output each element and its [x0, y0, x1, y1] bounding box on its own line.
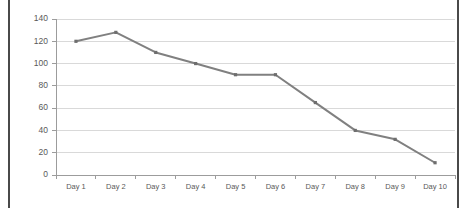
- data-point-marker: [354, 129, 357, 132]
- x-axis-tick-label: Day 3: [146, 182, 166, 191]
- y-axis-tick-label: 60: [39, 102, 49, 112]
- y-axis-tick-label: 20: [39, 147, 49, 157]
- x-axis-tick-label: Day 4: [186, 182, 206, 191]
- data-point-marker: [394, 138, 397, 141]
- series-line-path: [76, 32, 435, 162]
- y-axis-labels: 020406080100120140: [34, 13, 56, 179]
- data-point-markers: [74, 31, 436, 165]
- y-axis-tick-label: 80: [39, 80, 49, 90]
- gridlines: [56, 19, 455, 175]
- x-axis-tick-label: Day 1: [66, 182, 86, 191]
- data-point-marker: [74, 40, 77, 43]
- y-axis-tick-label: 0: [43, 169, 48, 179]
- y-axis-tick-label: 100: [34, 58, 48, 68]
- y-axis-tick-label: 120: [34, 36, 48, 46]
- y-axis-tick-label: 140: [34, 13, 48, 23]
- x-axis-tick-label: Day 9: [385, 182, 405, 191]
- data-point-marker: [114, 31, 117, 34]
- line-chart: 020406080100120140 Day 1Day 2Day 3Day 4D…: [0, 0, 476, 208]
- data-point-marker: [234, 73, 237, 76]
- x-axis-tick-label: Day 2: [106, 182, 126, 191]
- x-axis-tick-label: Day 10: [423, 182, 447, 191]
- data-point-marker: [433, 161, 436, 164]
- x-axis: [56, 175, 455, 179]
- y-axis-tick-label: 40: [39, 125, 49, 135]
- data-point-marker: [154, 51, 157, 54]
- chart-canvas: 020406080100120140 Day 1Day 2Day 3Day 4D…: [0, 0, 476, 208]
- x-axis-tick-label: Day 6: [266, 182, 286, 191]
- chart-screenshot: 020406080100120140 Day 1Day 2Day 3Day 4D…: [0, 0, 476, 208]
- x-axis-tick-label: Day 7: [306, 182, 326, 191]
- data-point-marker: [194, 62, 197, 65]
- x-axis-tick-label: Day 8: [345, 182, 365, 191]
- data-point-marker: [314, 101, 317, 104]
- data-point-marker: [274, 73, 277, 76]
- data-series-line: [76, 32, 435, 162]
- x-axis-tick-label: Day 5: [226, 182, 246, 191]
- x-axis-labels: Day 1Day 2Day 3Day 4Day 5Day 6Day 7Day 8…: [66, 182, 447, 191]
